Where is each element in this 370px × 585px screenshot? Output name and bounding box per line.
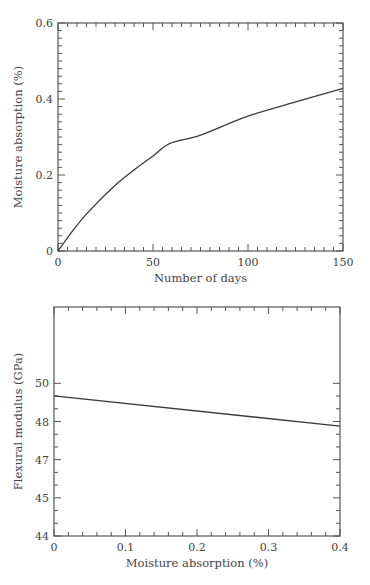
y-axis-label: Flexural modulus (GPa) [11, 353, 25, 491]
x-tick-label: 50 [146, 256, 160, 269]
x-tick-label: 0.2 [188, 541, 206, 554]
y-tick-label: 0 [46, 245, 53, 258]
y-tick-label: 45 [35, 492, 49, 505]
y-tick-label: 50 [35, 377, 49, 390]
x-tick-label: 0 [51, 541, 58, 554]
x-tick-label: 0 [55, 256, 62, 269]
y-tick-label: 0.4 [36, 93, 54, 106]
moisture-vs-days-chart: 05010015000.20.40.6Number of daysMoistur… [0, 0, 370, 290]
data-line [58, 88, 343, 251]
data-line [54, 396, 340, 426]
x-tick-label: 0.1 [117, 541, 135, 554]
y-axis-label: Moisture absorption (%) [11, 66, 25, 208]
y-tick-label: 48 [35, 416, 49, 429]
x-tick-label: 150 [333, 256, 354, 269]
chart-svg-top: 05010015000.20.40.6Number of daysMoistur… [0, 0, 370, 290]
x-tick-label: 100 [238, 256, 259, 269]
y-tick-label: 0.6 [36, 17, 54, 30]
x-tick-label: 0.3 [260, 541, 278, 554]
x-axis-label: Moisture absorption (%) [126, 556, 268, 570]
x-tick-label: 0.4 [331, 541, 349, 554]
plot-frame [58, 23, 343, 251]
y-tick-label: 0.2 [36, 169, 54, 182]
x-axis-label: Number of days [154, 271, 247, 285]
chart-svg-bottom: 00.10.20.30.44445474850Moisture absorpti… [0, 290, 370, 585]
y-tick-label: 44 [35, 530, 49, 543]
y-tick-label: 47 [35, 454, 49, 467]
modulus-vs-moisture-chart: 00.10.20.30.44445474850Moisture absorpti… [0, 290, 370, 585]
